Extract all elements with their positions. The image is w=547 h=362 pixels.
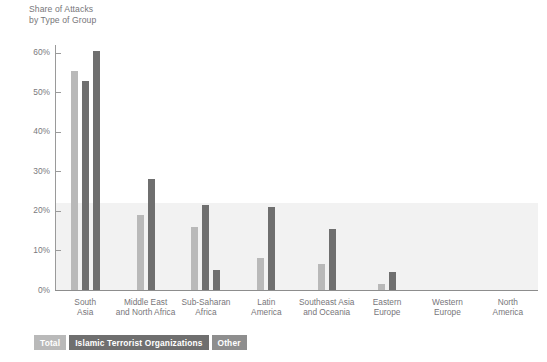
bar xyxy=(93,51,100,290)
x-axis-line xyxy=(55,290,538,291)
y-axis-tick-label: 30% xyxy=(33,166,50,176)
bar xyxy=(202,205,209,290)
share-of-attacks-bar-chart: Share of Attacks by Type of Group 60%50%… xyxy=(0,0,547,362)
y-axis-tick-label: 20% xyxy=(33,205,50,215)
plot-area xyxy=(55,45,538,290)
legend-item: Other xyxy=(212,335,247,350)
chart-legend: TotalIslamic Terrorist OrganizationsOthe… xyxy=(34,335,247,350)
legend-item: Total xyxy=(34,335,66,350)
y-axis-tick-label: 40% xyxy=(33,126,50,136)
y-axis-line xyxy=(55,45,56,290)
x-axis-category-label: North America xyxy=(472,297,544,317)
bar xyxy=(268,207,275,290)
background-shading-band xyxy=(55,203,538,290)
bar xyxy=(137,215,144,290)
bar xyxy=(213,270,220,290)
y-axis-tick-label: 0% xyxy=(38,285,50,295)
bar xyxy=(329,229,336,290)
y-axis-tick-label: 60% xyxy=(33,47,50,57)
legend-item: Islamic Terrorist Organizations xyxy=(69,335,208,350)
y-axis-tick-labels: 60%50%40%30%20%10%0% xyxy=(0,0,50,362)
bar xyxy=(318,264,325,290)
bar xyxy=(389,272,396,290)
bar xyxy=(257,258,264,290)
bar xyxy=(148,179,155,290)
y-axis-tick-label: 10% xyxy=(33,245,50,255)
bar xyxy=(191,227,198,290)
bar xyxy=(71,71,78,290)
bar xyxy=(82,81,89,290)
y-axis-tick-label: 50% xyxy=(33,87,50,97)
